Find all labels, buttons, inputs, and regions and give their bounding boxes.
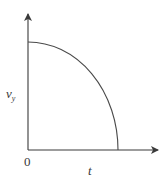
- velocity-curve: [28, 42, 118, 150]
- y-axis-label: vy: [6, 86, 16, 103]
- origin-label: 0: [24, 154, 31, 169]
- x-axis-label: t: [88, 163, 92, 178]
- velocity-time-graph: vy 0 t: [0, 0, 167, 178]
- chart-canvas: vy 0 t: [0, 0, 167, 178]
